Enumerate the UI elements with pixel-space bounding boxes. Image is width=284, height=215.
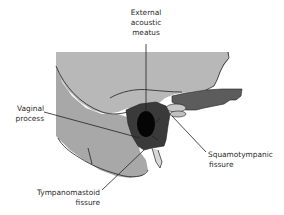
label-squamotympanic-fissure: Squamotympanic fissure xyxy=(208,150,273,170)
external-acoustic-meatus xyxy=(137,111,155,137)
label-tympanomastoid-fissure: Tympanomastoid fissure xyxy=(30,188,100,208)
styloid-process xyxy=(152,148,162,168)
label-vaginal-process: Vaginal process xyxy=(4,104,44,124)
leader-squamotympanic-fissure xyxy=(172,116,206,152)
temporal-bone-diagram: External acoustic meatus Vaginal process… xyxy=(0,0,284,215)
label-external-acoustic-meatus: External acoustic meatus xyxy=(124,8,168,37)
